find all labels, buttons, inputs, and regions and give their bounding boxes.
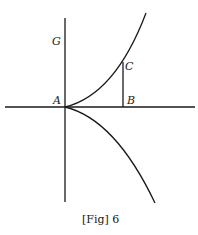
lower-curve	[65, 107, 155, 203]
figure-diagram: G A B C [Fig] 6	[0, 0, 198, 235]
label-b: B	[126, 94, 135, 107]
label-c: C	[125, 60, 134, 73]
label-g: G	[52, 35, 61, 48]
upper-curve	[65, 13, 146, 107]
figure-caption: [Fig] 6	[82, 213, 119, 226]
label-a: A	[52, 94, 61, 107]
